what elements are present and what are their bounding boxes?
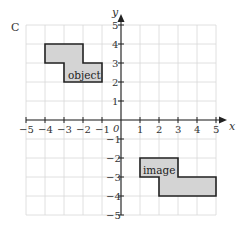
question-label: C (11, 21, 19, 34)
y-tick-label: 4 (112, 39, 118, 50)
x-tick-label: −2 (76, 124, 91, 135)
x-tick-label: −4 (38, 124, 53, 135)
image-label: image (143, 164, 176, 176)
y-tick-label: −4 (106, 191, 121, 202)
y-tick-label: −1 (106, 134, 121, 145)
y-tick-label: 2 (112, 77, 118, 88)
y-tick-label: 1 (112, 96, 118, 107)
y-tick-label: −5 (106, 210, 121, 221)
y-axis-arrow-icon (118, 14, 125, 22)
x-tick-label: 5 (213, 124, 219, 135)
x-tick-label: 3 (175, 124, 181, 135)
x-tick-label: 1 (137, 124, 143, 135)
y-axis-label: y (111, 6, 119, 19)
y-tick-label: 3 (112, 58, 118, 69)
y-tick-label: −2 (106, 153, 121, 164)
y-tick-label: 5 (112, 20, 118, 31)
y-tick-label: −3 (106, 172, 121, 183)
x-axis-label: x (229, 120, 236, 133)
x-tick-label: 4 (194, 124, 200, 135)
x-tick-label: −3 (57, 124, 72, 135)
object-label: object (68, 69, 101, 81)
x-axis-arrow-icon (219, 117, 227, 124)
coordinate-grid-diagram: x y 0 −5−4−3−2−11234554321−1−2−3−4−5 obj… (0, 0, 248, 236)
origin-label: 0 (113, 123, 120, 134)
x-tick-label: −5 (19, 124, 34, 135)
x-tick-label: 2 (156, 124, 162, 135)
